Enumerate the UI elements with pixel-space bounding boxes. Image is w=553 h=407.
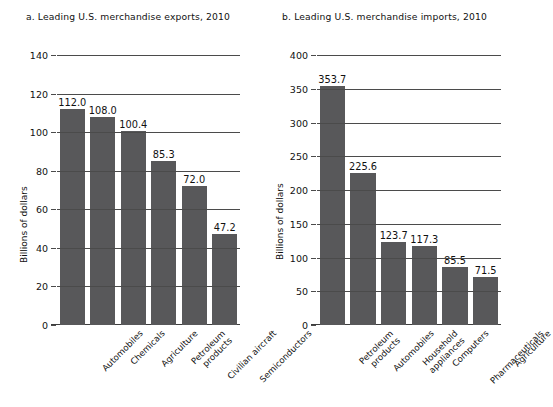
- bar[interactable]: [381, 242, 406, 325]
- panel-title-imports: b. Leading U.S. merchandise imports, 201…: [256, 11, 513, 22]
- plot-area-imports: 353.7225.6123.7117.385.571.5 Petroleumpr…: [317, 55, 501, 325]
- gridline-b-350: [317, 89, 501, 90]
- bar[interactable]: [60, 109, 85, 325]
- y-axis-label-imports: Billions of dollars: [275, 183, 285, 260]
- bar[interactable]: [442, 267, 467, 325]
- y-tick-label-b-400: 400: [290, 50, 308, 61]
- y-tick-b-400: [311, 55, 316, 56]
- bar-series-exports: 112.0108.0100.485.372.047.2: [57, 55, 240, 325]
- y-tick-label-a-120: 120: [30, 88, 48, 99]
- y-tick-label-a-60: 60: [36, 204, 48, 215]
- y-tick-b-350: [311, 89, 316, 90]
- gridline-b-200: [317, 190, 501, 191]
- gridline-b-100: [317, 258, 501, 259]
- y-tick-b-50: [311, 291, 316, 292]
- bar-value-label: 108.0: [89, 105, 117, 116]
- bar-value-label: 72.0: [183, 174, 205, 185]
- y-tick-label-b-350: 350: [290, 83, 308, 94]
- y-tick-label-b-0: 0: [302, 320, 308, 331]
- bar-value-label: 117.3: [410, 234, 438, 245]
- y-tick-a-20: [51, 286, 56, 287]
- bar-value-label: 71.5: [475, 265, 497, 276]
- y-tick-b-150: [311, 224, 316, 225]
- bar-slot[interactable]: 47.2: [210, 55, 241, 325]
- chart-panel-imports: b. Leading U.S. merchandise imports, 201…: [256, 0, 513, 407]
- y-axis-label-exports: Billions of dollars: [19, 186, 29, 263]
- y-tick-label-b-50: 50: [296, 286, 308, 297]
- y-tick-a-100: [51, 132, 56, 133]
- bar-slot[interactable]: 112.0: [57, 55, 88, 325]
- chart-panel-exports: a. Leading U.S. merchandise exports, 201…: [0, 0, 256, 407]
- bar[interactable]: [473, 277, 498, 325]
- bar[interactable]: [151, 161, 176, 326]
- bar[interactable]: [90, 117, 115, 325]
- bar[interactable]: [182, 186, 207, 325]
- panel-title-exports: a. Leading U.S. merchandise exports, 201…: [0, 11, 256, 22]
- bar-value-label: 112.0: [58, 97, 86, 108]
- y-tick-label-a-0: 0: [42, 320, 48, 331]
- plot-area-exports: 112.0108.0100.485.372.047.2 AutomobilesC…: [57, 55, 240, 325]
- gridline-b-250: [317, 156, 501, 157]
- bar-value-label: 353.7: [318, 74, 346, 85]
- y-tick-a-80: [51, 171, 56, 172]
- y-tick-label-b-200: 200: [290, 185, 308, 196]
- bar-slot[interactable]: 85.3: [149, 55, 180, 325]
- y-tick-label-b-150: 150: [290, 218, 308, 229]
- x-axis-category-labels-exports: AutomobilesChemicalsAgriculturePetroleum…: [57, 325, 240, 407]
- bar-value-label: 123.7: [380, 230, 408, 241]
- y-tick-label-a-20: 20: [36, 281, 48, 292]
- gridline-b-150: [317, 224, 501, 225]
- bar-value-label: 47.2: [214, 222, 236, 233]
- y-tick-a-40: [51, 248, 56, 249]
- bar-value-label: 100.4: [119, 119, 147, 130]
- y-tick-a-140: [51, 55, 56, 56]
- y-tick-label-b-250: 250: [290, 151, 308, 162]
- y-tick-label-b-300: 300: [290, 117, 308, 128]
- gridline-a-20: [57, 286, 240, 287]
- bar-slot[interactable]: 72.0: [179, 55, 210, 325]
- gridline-b-300: [317, 123, 501, 124]
- gridline-a-80: [57, 171, 240, 172]
- y-tick-label-b-100: 100: [290, 252, 308, 263]
- gridline-a-120: [57, 94, 240, 95]
- y-tick-a-120: [51, 94, 56, 95]
- bar-value-label: 85.3: [153, 149, 175, 160]
- x-axis-category-labels-imports: PetroleumproductsAutomobilesHouseholdapp…: [317, 325, 501, 407]
- y-tick-b-300: [311, 123, 316, 124]
- y-tick-label-a-40: 40: [36, 242, 48, 253]
- y-tick-a-0: [51, 325, 56, 326]
- gridline-a-40: [57, 248, 240, 249]
- bar-value-label: 225.6: [349, 161, 377, 172]
- gridline-a-140: [57, 55, 240, 56]
- y-tick-b-250: [311, 156, 316, 157]
- bar-slot[interactable]: 100.4: [118, 55, 149, 325]
- y-tick-a-60: [51, 209, 56, 210]
- y-tick-b-200: [311, 190, 316, 191]
- gridline-a-100: [57, 132, 240, 133]
- y-tick-label-a-80: 80: [36, 165, 48, 176]
- gridline-b-400: [317, 55, 501, 56]
- bar-slot[interactable]: 108.0: [88, 55, 119, 325]
- bar[interactable]: [121, 131, 146, 325]
- y-tick-b-100: [311, 258, 316, 259]
- y-tick-label-a-100: 100: [30, 127, 48, 138]
- bar[interactable]: [350, 173, 375, 325]
- y-tick-label-a-140: 140: [30, 50, 48, 61]
- gridline-b-50: [317, 291, 501, 292]
- y-tick-b-0: [311, 325, 316, 326]
- gridline-a-60: [57, 209, 240, 210]
